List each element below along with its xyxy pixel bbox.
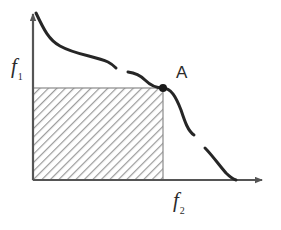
x-axis-label: f2 xyxy=(173,190,184,213)
figure-canvas xyxy=(0,0,281,230)
pareto-segment-3 xyxy=(205,148,236,180)
x-axis-label-subscript: 2 xyxy=(180,205,185,216)
pareto-segment-1 xyxy=(36,13,116,68)
y-axis-label-subscript: 1 xyxy=(18,71,23,82)
point-a-label: A xyxy=(176,64,187,81)
dominated-region-group xyxy=(33,88,163,180)
y-axis-label-base: f xyxy=(11,54,17,78)
point-a-marker xyxy=(159,84,167,92)
hatched-rectangle xyxy=(33,88,163,180)
x-axis-label-base: f xyxy=(173,188,179,212)
pareto-front-figure: f1 f2 A xyxy=(0,0,281,230)
y-axis-label: f1 xyxy=(11,56,22,79)
